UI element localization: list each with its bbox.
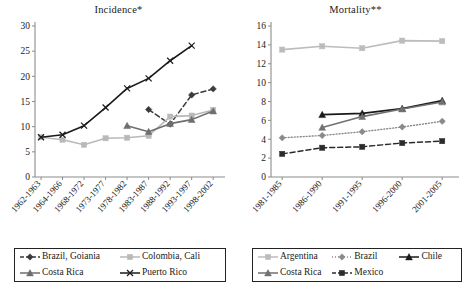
legend-incidence-grid: Brazil, GoianiaColombia, CaliCosta RicaP… bbox=[15, 249, 225, 281]
svg-text:4: 4 bbox=[261, 135, 266, 145]
svg-text:16: 16 bbox=[257, 21, 267, 31]
legend-marker-puerto-rico bbox=[120, 268, 140, 278]
svg-text:30: 30 bbox=[21, 21, 31, 31]
svg-text:14: 14 bbox=[257, 40, 267, 50]
legend-item-costa-rica[interactable]: Costa Rica bbox=[20, 268, 120, 278]
legend-item-argentina[interactable]: Argentina bbox=[258, 252, 332, 262]
svg-text:0: 0 bbox=[261, 172, 266, 182]
legend-mortality: ArgentinaBrazilChileCosta RicaMexico bbox=[252, 248, 462, 282]
legend-item-brazil[interactable]: Brazil bbox=[332, 252, 399, 262]
svg-text:25: 25 bbox=[21, 46, 31, 56]
legend-item-label: Argentina bbox=[280, 252, 318, 262]
svg-text:1991-1995: 1991-1995 bbox=[330, 178, 364, 214]
svg-text:12: 12 bbox=[257, 59, 267, 69]
legend-marker-brazil bbox=[332, 252, 352, 262]
legend-item-label: Puerto Rico bbox=[142, 268, 187, 278]
svg-text:0: 0 bbox=[25, 172, 30, 182]
chart-panel-mortality: Mortality** 02468101214161981-19851986-1… bbox=[237, 0, 474, 234]
figure-root: Incidence* 0510152025301962-19631964-196… bbox=[0, 0, 474, 289]
chart-svg-mortality: 02468101214161981-19851986-19901991-1995… bbox=[237, 0, 474, 234]
chart-title-incidence: Incidence* bbox=[0, 4, 237, 15]
legend-item-label: Chile bbox=[421, 252, 442, 262]
svg-text:5: 5 bbox=[25, 147, 30, 157]
legend-mortality-grid: ArgentinaBrazilChileCosta RicaMexico bbox=[253, 249, 461, 281]
legend-item-mexico[interactable]: Mexico bbox=[332, 268, 399, 278]
legend-item-chile[interactable]: Chile bbox=[399, 252, 456, 262]
legend-item-brazil-goiania[interactable]: Brazil, Goiania bbox=[20, 252, 120, 262]
svg-text:15: 15 bbox=[21, 97, 31, 107]
svg-text:20: 20 bbox=[21, 72, 31, 82]
legend-item-label: Costa Rica bbox=[280, 268, 321, 278]
legend-marker-costa-rica bbox=[20, 268, 40, 278]
svg-text:2001-2005: 2001-2005 bbox=[410, 178, 444, 214]
svg-text:6: 6 bbox=[261, 116, 266, 126]
svg-text:1986-1990: 1986-1990 bbox=[290, 178, 324, 214]
legend-marker-chile bbox=[399, 252, 419, 262]
svg-text:1996-2000: 1996-2000 bbox=[370, 178, 404, 214]
legend-item-label: Brazil bbox=[354, 252, 377, 262]
legend-item-label: Costa Rica bbox=[42, 268, 83, 278]
svg-text:2: 2 bbox=[261, 153, 266, 163]
legend-item-label: Brazil, Goiania bbox=[42, 252, 100, 262]
legend-marker-mexico bbox=[332, 268, 352, 278]
legend-item-label: Mexico bbox=[354, 268, 383, 278]
legend-item-puerto-rico[interactable]: Puerto Rico bbox=[120, 268, 220, 278]
chart-title-mortality: Mortality** bbox=[237, 4, 474, 15]
legend-item-costa-rica[interactable]: Costa Rica bbox=[258, 268, 332, 278]
legend-item-colombia-cali[interactable]: Colombia, Cali bbox=[120, 252, 220, 262]
legend-marker-argentina bbox=[258, 252, 278, 262]
svg-text:1981-1985: 1981-1985 bbox=[250, 178, 284, 214]
legend-marker-costa-rica bbox=[258, 268, 278, 278]
svg-text:8: 8 bbox=[261, 97, 266, 107]
svg-text:10: 10 bbox=[257, 78, 267, 88]
svg-text:10: 10 bbox=[21, 122, 31, 132]
legend-marker-brazil-goiania bbox=[20, 252, 40, 262]
chart-panel-incidence: Incidence* 0510152025301962-19631964-196… bbox=[0, 0, 237, 234]
legend-incidence: Brazil, GoianiaColombia, CaliCosta RicaP… bbox=[14, 248, 226, 282]
legend-marker-colombia-cali bbox=[120, 252, 140, 262]
legend-item-label: Colombia, Cali bbox=[142, 252, 200, 262]
chart-svg-incidence: 0510152025301962-19631964-19661968-19721… bbox=[0, 0, 237, 234]
